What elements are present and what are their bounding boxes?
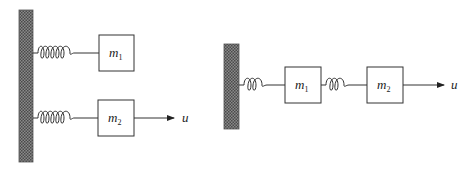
left-mass-2-label: m [108, 110, 117, 125]
right-wall [224, 44, 239, 129]
left-mass-2-subscript: 2 [117, 118, 121, 127]
left-mass-1: m1 [99, 35, 134, 71]
left-spring-2 [33, 111, 98, 123]
left-wall [19, 10, 33, 162]
left-input-label: u [182, 110, 189, 125]
right-mass-1: m1 [285, 67, 321, 103]
left-spring-1 [33, 46, 99, 58]
right-mass-2-label: m [377, 77, 386, 92]
right-mass-2: m2 [367, 67, 403, 103]
right-input-label: u [451, 77, 458, 92]
left-system: m1 m2 u [19, 10, 189, 162]
right-mass-1-subscript: 1 [304, 85, 308, 94]
left-mass-1-label: m [109, 45, 118, 60]
right-mass-2-subscript: 2 [386, 85, 390, 94]
right-mass-1-label: m [295, 77, 304, 92]
left-mass-2: m2 [98, 100, 134, 136]
right-spring-1 [239, 78, 285, 90]
right-spring-2 [321, 78, 367, 90]
left-mass-1-subscript: 1 [118, 53, 122, 62]
right-system: m1 m2 u [224, 44, 458, 129]
diagram-canvas: m1 m2 u m1 m2 u [0, 0, 463, 169]
